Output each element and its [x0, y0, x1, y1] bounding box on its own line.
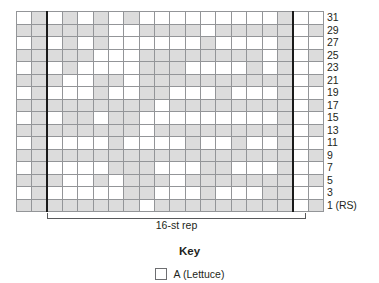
- chart-cell: [78, 112, 93, 125]
- chart-cell: [139, 87, 154, 100]
- chart-cell: [78, 37, 93, 50]
- chart-row: [17, 12, 324, 25]
- chart-cell: [124, 162, 139, 175]
- chart-cell: [293, 199, 308, 212]
- chart-row: [17, 124, 324, 137]
- chart-cell: [185, 99, 200, 112]
- chart-cell: [124, 12, 139, 25]
- chart-cell: [47, 162, 62, 175]
- chart-row: [17, 62, 324, 75]
- chart-cell: [277, 74, 292, 87]
- chart-cell: [155, 162, 170, 175]
- chart-cell: [231, 149, 246, 162]
- chart-cell: [124, 37, 139, 50]
- chart-cell: [32, 149, 47, 162]
- chart-cell: [63, 74, 78, 87]
- chart-cell: [109, 62, 124, 75]
- chart-cell: [185, 62, 200, 75]
- chart-cell: [308, 137, 323, 150]
- chart-cell: [139, 37, 154, 50]
- chart-cell: [308, 112, 323, 125]
- chart-cell: [47, 124, 62, 137]
- row-number-label: 17: [327, 99, 338, 112]
- chart-cell: [185, 187, 200, 200]
- chart-cell: [231, 12, 246, 25]
- chart-cell: [247, 124, 262, 137]
- chart-row: [17, 199, 324, 212]
- chart-cell: [293, 162, 308, 175]
- chart-cell: [262, 74, 277, 87]
- chart-cell: [155, 24, 170, 37]
- chart-cell: [78, 99, 93, 112]
- chart-cell: [308, 62, 323, 75]
- chart-cell: [109, 49, 124, 62]
- chart-cell: [247, 74, 262, 87]
- chart-cell: [32, 187, 47, 200]
- chart-cell: [17, 99, 32, 112]
- chart-cell: [262, 62, 277, 75]
- chart-cell: [308, 187, 323, 200]
- chart-cell: [216, 112, 231, 125]
- chart-cell: [308, 99, 323, 112]
- chart-row: [17, 149, 324, 162]
- chart-cell: [32, 174, 47, 187]
- chart-cell: [231, 99, 246, 112]
- chart-cell: [139, 149, 154, 162]
- chart-cell: [47, 187, 62, 200]
- chart-cell: [17, 49, 32, 62]
- chart-cell: [32, 87, 47, 100]
- chart-row: [17, 37, 324, 50]
- chart-cell: [216, 74, 231, 87]
- chart-cell: [109, 12, 124, 25]
- chart-cell: [201, 62, 216, 75]
- chart-cell: [155, 124, 170, 137]
- chart-cell: [32, 137, 47, 150]
- key-entry-label: A (Lettuce): [174, 268, 225, 280]
- chart-cell: [247, 49, 262, 62]
- chart-cell: [139, 174, 154, 187]
- chart-cell: [32, 124, 47, 137]
- chart-cell: [247, 187, 262, 200]
- chart-cell: [231, 49, 246, 62]
- chart-cell: [17, 24, 32, 37]
- chart-cell: [78, 74, 93, 87]
- chart-cell: [124, 62, 139, 75]
- chart-cell: [63, 174, 78, 187]
- chart-cell: [139, 62, 154, 75]
- row-number-label: 3: [327, 186, 333, 199]
- chart-cell: [47, 62, 62, 75]
- chart-cell: [201, 24, 216, 37]
- chart-cell: [216, 62, 231, 75]
- chart-cell: [216, 149, 231, 162]
- chart-cell: [216, 187, 231, 200]
- chart-cell: [93, 24, 108, 37]
- chart-cell: [17, 199, 32, 212]
- chart-cell: [32, 112, 47, 125]
- chart-cell: [155, 62, 170, 75]
- chart-cell: [139, 137, 154, 150]
- chart-cell: [139, 74, 154, 87]
- chart-cell: [293, 124, 308, 137]
- chart-row: [17, 24, 324, 37]
- chart-cell: [231, 24, 246, 37]
- chart-cell: [201, 199, 216, 212]
- chart-cell: [124, 174, 139, 187]
- chart-cell: [109, 149, 124, 162]
- chart-cell: [78, 87, 93, 100]
- chart-cell: [93, 137, 108, 150]
- chart-cell: [155, 199, 170, 212]
- chart-cell: [155, 12, 170, 25]
- chart-cell: [17, 12, 32, 25]
- chart-row: [17, 87, 324, 100]
- chart-cell: [277, 199, 292, 212]
- chart-key: Key A (Lettuce): [0, 245, 379, 283]
- chart-cell: [17, 112, 32, 125]
- chart-cell: [170, 24, 185, 37]
- chart-cell: [63, 124, 78, 137]
- chart-cell: [262, 99, 277, 112]
- chart-cell: [216, 137, 231, 150]
- chart-cell: [277, 124, 292, 137]
- chart-cell: [155, 112, 170, 125]
- row-number-label: 13: [327, 124, 338, 137]
- chart-row: [17, 174, 324, 187]
